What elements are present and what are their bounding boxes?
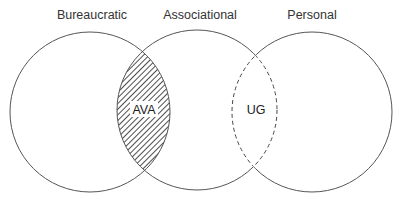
- personal-label: Personal: [287, 8, 336, 22]
- associational-label: Associational: [163, 8, 237, 22]
- venn-diagram: AVA UG Bureaucratic Associational Person…: [0, 0, 399, 204]
- ava-label: AVA: [132, 103, 156, 117]
- ug-label: UG: [247, 103, 266, 117]
- bureaucratic-label: Bureaucratic: [57, 8, 127, 22]
